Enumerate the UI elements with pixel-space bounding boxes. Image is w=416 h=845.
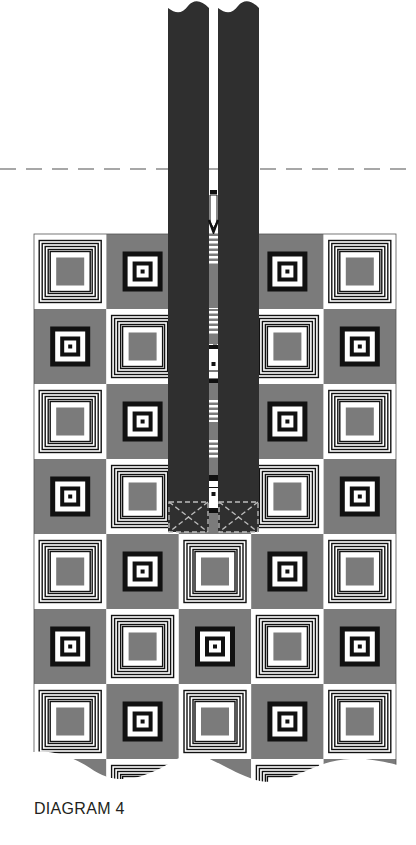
- target-block: [324, 459, 396, 534]
- concentric-lines-block: [179, 684, 251, 759]
- target-block: [106, 234, 178, 309]
- concentric-lines-block: [251, 459, 323, 534]
- concentric-lines-block: [324, 384, 396, 459]
- concentric-lines-block: [251, 309, 323, 384]
- target-block: [106, 684, 178, 759]
- concentric-lines-block: [251, 609, 323, 684]
- zipper: [168, 1, 259, 533]
- concentric-lines-block: [106, 459, 178, 534]
- concentric-lines-block: [106, 609, 178, 684]
- target-block: [34, 609, 106, 684]
- quilt-diagram: [0, 0, 416, 845]
- target-block: [251, 684, 323, 759]
- concentric-lines-block: [34, 234, 106, 309]
- target-block: [251, 384, 323, 459]
- concentric-lines-block: [251, 759, 323, 834]
- concentric-lines-block: [34, 534, 106, 609]
- target-block: [34, 459, 106, 534]
- concentric-lines-block: [106, 309, 178, 384]
- target-block: [179, 609, 251, 684]
- concentric-lines-block: [34, 684, 106, 759]
- target-block: [251, 234, 323, 309]
- target-block: [251, 534, 323, 609]
- target-block: [324, 309, 396, 384]
- concentric-lines-block: [324, 684, 396, 759]
- target-block: [34, 759, 106, 834]
- target-block: [106, 384, 178, 459]
- target-block: [179, 759, 251, 834]
- target-block: [106, 534, 178, 609]
- concentric-lines-block: [324, 534, 396, 609]
- concentric-lines-block: [179, 534, 251, 609]
- target-block: [324, 609, 396, 684]
- concentric-lines-block: [106, 759, 178, 834]
- concentric-lines-block: [324, 234, 396, 309]
- diagram-caption: DIAGRAM 4: [34, 800, 125, 818]
- target-block: [324, 759, 396, 834]
- target-block: [34, 309, 106, 384]
- concentric-lines-block: [34, 384, 106, 459]
